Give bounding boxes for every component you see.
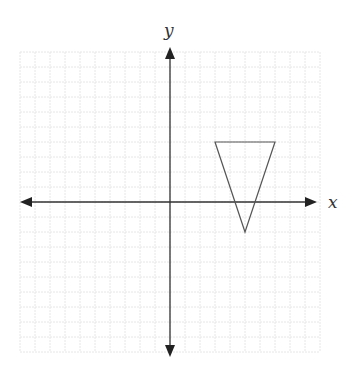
- y-axis-arrow-up-icon: [165, 47, 175, 59]
- x-axis-label: x: [328, 192, 338, 212]
- x-axis-arrow-right-icon: [305, 197, 317, 207]
- y-axis-label: y: [163, 20, 174, 40]
- x-axis-arrow-left-icon: [20, 197, 32, 207]
- coordinate-plane: x y: [0, 0, 355, 368]
- y-axis-arrow-down-icon: [165, 345, 175, 357]
